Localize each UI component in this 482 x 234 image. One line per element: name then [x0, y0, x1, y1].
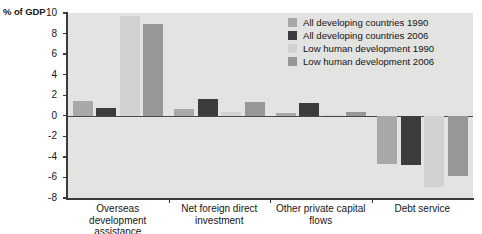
y-axis-unit-label: % of GDP: [3, 6, 45, 17]
category-label: Net foreign direct investment: [169, 203, 271, 226]
legend-swatch-icon: [288, 18, 297, 27]
bar: [73, 101, 93, 115]
bar: [424, 116, 444, 187]
bar: [299, 103, 319, 115]
bar: [377, 116, 397, 164]
y-axis-tick-label: -4: [48, 152, 57, 162]
category-label: Overseas development assistance: [67, 203, 169, 234]
legend-item: All developing countries 2006: [288, 29, 434, 42]
y-axis-line: [66, 12, 68, 199]
bar: [276, 113, 296, 116]
legend-swatch-icon: [288, 44, 297, 53]
y-axis-tick-label: 8: [51, 29, 57, 39]
category-label: Debt service: [372, 203, 474, 215]
bar: [96, 108, 116, 116]
y-axis-tick-label: -8: [48, 193, 57, 203]
y-axis-tick-label: 2: [51, 90, 57, 100]
bar: [143, 24, 163, 115]
bar: [401, 116, 421, 165]
bar: [198, 99, 218, 115]
category-label: Other private capital flows: [270, 203, 372, 226]
legend-label: All developing countries 1990: [303, 18, 428, 28]
legend-item: All developing countries 1990: [288, 16, 434, 29]
legend-label: Low human development 2006: [303, 57, 434, 67]
bar-chart: % of GDP 1086420-2-4-6-8 Overseas develo…: [0, 0, 482, 234]
bar: [221, 112, 241, 116]
y-axis-tick-label: 4: [51, 70, 57, 80]
bar: [323, 115, 343, 116]
legend-item: Low human development 1990: [288, 42, 434, 55]
bar: [448, 116, 468, 177]
bar: [346, 112, 366, 116]
bar: [120, 16, 140, 116]
y-axis-tick-label: 0: [51, 111, 57, 121]
y-axis-tick-label: -2: [48, 131, 57, 141]
bar: [245, 102, 265, 115]
legend-label: All developing countries 2006: [303, 31, 428, 41]
legend-swatch-icon: [288, 31, 297, 40]
y-axis-tick-label: -6: [48, 172, 57, 182]
legend-swatch-icon: [288, 57, 297, 66]
bar-group: [169, 13, 271, 198]
bar-group: [67, 13, 169, 198]
chart-legend: All developing countries 1990All develop…: [288, 16, 434, 68]
y-axis-tick-label: 6: [51, 49, 57, 59]
legend-label: Low human development 1990: [303, 44, 434, 54]
y-axis-tick-label: 10: [46, 8, 57, 18]
bar: [174, 109, 194, 116]
legend-item: Low human development 2006: [288, 55, 434, 68]
